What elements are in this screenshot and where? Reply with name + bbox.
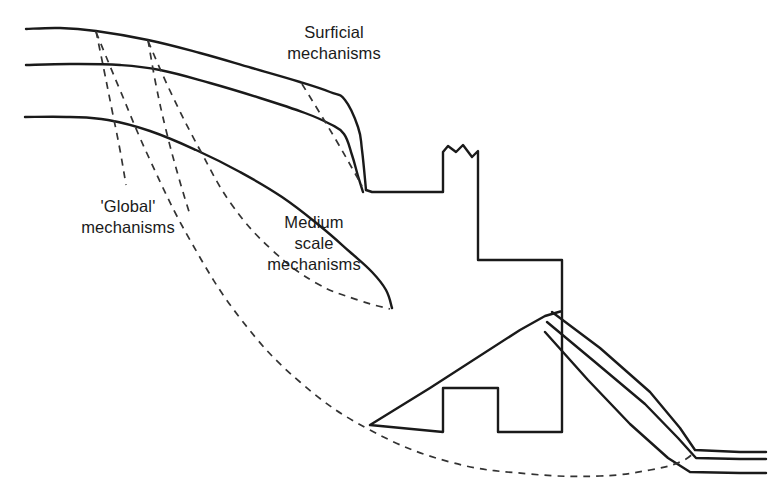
global-label-line-1: 'Global': [52, 196, 204, 217]
slope-profile-drawing: [0, 0, 769, 502]
medium-label-line-1: Medium: [244, 212, 384, 233]
global-mechanisms-label: 'Global' mechanisms: [52, 196, 204, 238]
global-label-line-2: mechanisms: [52, 217, 204, 238]
medium-label-line-3: mechanisms: [244, 254, 384, 275]
medium-label-line-2: scale: [244, 233, 384, 254]
slope-stability-diagram: Surficial mechanisms 'Global' mechanisms…: [0, 0, 769, 502]
surficial-mechanisms-label: Surficial mechanisms: [254, 22, 414, 64]
surficial-label-line-1: Surficial: [254, 22, 414, 43]
surficial-label-line-2: mechanisms: [254, 43, 414, 64]
medium-scale-mechanisms-label: Medium scale mechanisms: [244, 212, 384, 275]
